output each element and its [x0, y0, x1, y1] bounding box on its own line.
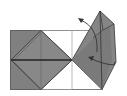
origami-diagram [0, 0, 127, 96]
unfold-arrow-head [78, 18, 84, 23]
